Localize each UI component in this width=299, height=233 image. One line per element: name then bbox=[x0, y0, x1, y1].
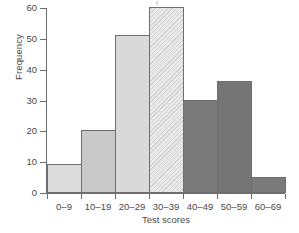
x-tick-label: 40–49 bbox=[183, 200, 217, 214]
y-tick: 0 bbox=[40, 193, 46, 194]
x-tick bbox=[251, 194, 252, 199]
scan-artifact bbox=[156, 1, 158, 5]
x-axis-title: Test scores bbox=[47, 213, 285, 227]
bar bbox=[183, 100, 218, 194]
y-tick-label: 10 bbox=[26, 155, 37, 169]
plot-area: 0102030405060 0–910–1920–2930–3940–4950–… bbox=[47, 8, 285, 193]
bar bbox=[251, 177, 286, 193]
x-tick bbox=[115, 194, 116, 199]
x-tick-label: 60–69 bbox=[251, 200, 285, 214]
x-tick bbox=[217, 194, 218, 199]
bar bbox=[81, 130, 116, 193]
x-tick-label: 10–19 bbox=[81, 200, 115, 214]
y-tick: 40 bbox=[40, 70, 46, 71]
x-tick bbox=[47, 194, 48, 199]
x-tick-label: 0–9 bbox=[47, 200, 81, 214]
y-tick: 10 bbox=[40, 162, 46, 163]
x-tick-label: 20–29 bbox=[115, 200, 149, 214]
y-tick: 20 bbox=[40, 131, 46, 132]
bar bbox=[115, 35, 150, 193]
x-tick-label: 50–59 bbox=[217, 200, 251, 214]
bar bbox=[47, 164, 82, 193]
y-axis-title: Frequency bbox=[12, 0, 26, 122]
histogram-chart: Frequency 0102030405060 0–910–1920–2930–… bbox=[0, 0, 299, 233]
y-tick-label: 40 bbox=[26, 63, 37, 77]
y-tick: 30 bbox=[40, 101, 46, 102]
y-tick-label: 0 bbox=[32, 186, 37, 200]
x-tick bbox=[183, 194, 184, 199]
x-tick bbox=[149, 194, 150, 199]
y-tick-label: 30 bbox=[26, 94, 37, 108]
y-tick-label: 50 bbox=[26, 32, 37, 46]
x-tick bbox=[285, 194, 286, 199]
y-tick: 50 bbox=[40, 39, 46, 40]
bar bbox=[149, 7, 184, 193]
y-tick-label: 20 bbox=[26, 124, 37, 138]
y-tick: 60 bbox=[40, 8, 46, 9]
x-tick bbox=[81, 194, 82, 199]
x-tick-label: 30–39 bbox=[149, 200, 183, 214]
y-tick-label: 60 bbox=[26, 1, 37, 15]
bar bbox=[217, 81, 252, 193]
